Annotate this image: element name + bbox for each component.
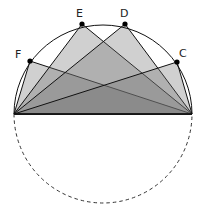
- point-c-dot: [174, 59, 179, 64]
- point-c-label: C: [179, 47, 187, 60]
- point-e-dot: [79, 21, 84, 26]
- lower-semicircle-dashed-arc: [14, 114, 192, 203]
- point-e-label: E: [76, 7, 83, 20]
- point-f-label: F: [15, 48, 21, 61]
- inscribed-triangles: [14, 24, 192, 114]
- point-f-dot: [27, 58, 32, 63]
- semicircle-triangles-diagram: FEDC: [0, 0, 209, 222]
- point-d-dot: [122, 21, 127, 26]
- point-d-label: D: [120, 7, 128, 20]
